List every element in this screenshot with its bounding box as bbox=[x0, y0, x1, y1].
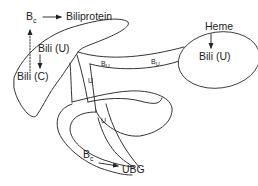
bc-top-label: Bc bbox=[26, 10, 37, 24]
bu-right-label: BU bbox=[151, 58, 160, 67]
bc-bottom-label: Bc bbox=[83, 148, 94, 162]
intestine-inner-curve bbox=[88, 98, 162, 103]
heme-label: Heme bbox=[205, 20, 233, 32]
bili-u-heme-label: Bili (U) bbox=[199, 50, 231, 62]
duct-to-heme-upper bbox=[78, 47, 184, 57]
bilirubin-diagram: Bc Biliprotein Bili (U) Bili (C) Heme Bi… bbox=[0, 0, 258, 186]
bile-duct-right bbox=[77, 55, 88, 102]
u-duct-lower-label: U bbox=[101, 117, 106, 124]
bili-c-label: Bili (C) bbox=[17, 70, 49, 82]
duct-inner-left bbox=[90, 64, 96, 112]
ubg-label: UBG bbox=[122, 163, 145, 175]
bu-left-label: BU bbox=[101, 60, 110, 69]
bile-duct-left bbox=[70, 63, 72, 102]
u-duct-upper-label: U bbox=[88, 77, 93, 84]
biliprotein-label: Biliprotein bbox=[66, 10, 112, 22]
bili-u-liver-label: Bili (U) bbox=[38, 42, 70, 54]
